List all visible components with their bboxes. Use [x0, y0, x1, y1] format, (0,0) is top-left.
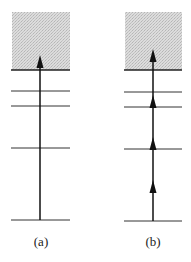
panel-b: (b): [124, 12, 182, 249]
panel-label: (a): [34, 234, 48, 249]
panel-label: (b): [145, 234, 160, 249]
energy-level-diagram: (a) (b): [0, 0, 191, 262]
arrowhead-icon: [150, 137, 157, 150]
panel-a: (a): [11, 12, 70, 249]
arrowhead-icon: [150, 95, 157, 108]
arrowhead-icon: [150, 180, 157, 193]
